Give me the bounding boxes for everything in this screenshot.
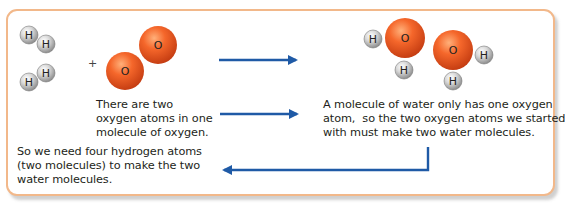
oxygen-label: O bbox=[401, 32, 410, 45]
oxygen-note-text: There are two oxygen atoms in one molecu… bbox=[96, 98, 213, 140]
oxygen-label: O bbox=[121, 65, 130, 78]
hydrogen-label: H bbox=[42, 67, 50, 80]
hydrogen-label: H bbox=[42, 38, 50, 51]
water-molecule-1: H O H bbox=[364, 18, 425, 79]
oxygen-molecule: O O bbox=[106, 26, 177, 90]
hydrogen-molecule-1: H H bbox=[20, 26, 55, 53]
hydrogen-molecule-2: H H bbox=[20, 64, 55, 91]
plus-sign: + bbox=[88, 57, 97, 70]
hydrogen-label: H bbox=[25, 76, 33, 89]
water-note-text: A molecule of water only has one oxygen … bbox=[323, 98, 565, 140]
water-molecule-2: O H H bbox=[433, 30, 493, 90]
hydrogen-label: H bbox=[480, 49, 488, 62]
hydrogen-label: H bbox=[449, 75, 457, 88]
hydrogen-note-text: So we need four hydrogen atoms (two mole… bbox=[17, 145, 202, 187]
hydrogen-label: H bbox=[25, 29, 33, 42]
return-arrow bbox=[224, 147, 428, 170]
hydrogen-label: H bbox=[400, 64, 408, 77]
hydrogen-label: H bbox=[369, 33, 377, 46]
oxygen-label: O bbox=[154, 39, 163, 52]
oxygen-label: O bbox=[449, 44, 458, 57]
